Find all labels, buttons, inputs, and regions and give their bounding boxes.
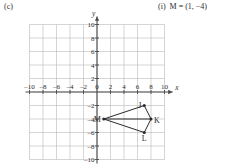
- x-tick-label: 6: [136, 83, 140, 91]
- vertex-point-j: [143, 104, 146, 107]
- x-tick-label: 2: [109, 83, 113, 91]
- y-tick-label: –10: [83, 156, 95, 164]
- y-tick-label: –2: [87, 102, 96, 110]
- vertex-label-j: J: [138, 101, 141, 110]
- y-tick-label: 6: [91, 48, 95, 56]
- vertex-point-m: [102, 118, 105, 121]
- x-tick-label: –4: [66, 83, 75, 91]
- y-tick-label: –8: [87, 143, 96, 151]
- vertex-label-k: K: [154, 116, 160, 125]
- vertex-label-m: M: [94, 115, 101, 124]
- x-tick-label: –8: [39, 83, 48, 91]
- x-axis-label: x: [174, 83, 179, 92]
- x-tick-label: 8: [149, 83, 153, 91]
- x-tick-label: 10: [161, 83, 169, 91]
- vertex-point-k: [150, 118, 153, 121]
- y-tick-label: 2: [91, 75, 95, 83]
- polygon-shape: [104, 106, 151, 133]
- y-tick-label: 10: [88, 21, 96, 29]
- y-tick-label: 8: [91, 35, 95, 43]
- x-tick-label: 0: [95, 83, 99, 91]
- x-tick-label: 4: [122, 83, 126, 91]
- y-axis-label: y: [91, 9, 96, 18]
- x-tick-label: –6: [52, 83, 61, 91]
- x-tick-label: –10: [23, 83, 35, 91]
- x-tick-label: –2: [79, 83, 88, 91]
- y-tick-label: 4: [91, 62, 95, 70]
- vertex-label-l: L: [142, 134, 147, 143]
- coordinate-plane-figure: –10–8–6–4–20246810–10–8–6–4–2246810 MJKL…: [0, 0, 250, 168]
- y-tick-label: –6: [87, 129, 96, 137]
- axis-name-labels: xy: [91, 9, 179, 92]
